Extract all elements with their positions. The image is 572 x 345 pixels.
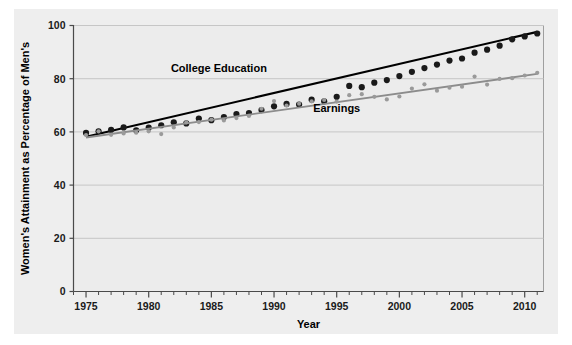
data-point bbox=[109, 133, 113, 137]
x-tick-label-1980: 1980 bbox=[137, 300, 161, 312]
data-point bbox=[172, 125, 176, 129]
data-point bbox=[134, 131, 138, 135]
data-point bbox=[498, 77, 502, 81]
x-tick-label-2000: 2000 bbox=[388, 300, 412, 312]
data-point bbox=[371, 80, 377, 86]
data-point bbox=[297, 102, 301, 106]
x-tick-label-1975: 1975 bbox=[74, 300, 98, 312]
data-point bbox=[334, 94, 340, 100]
plot-background bbox=[74, 26, 544, 292]
data-point bbox=[509, 36, 515, 42]
data-point bbox=[122, 131, 126, 135]
data-point bbox=[434, 62, 440, 68]
data-point bbox=[284, 103, 288, 107]
data-point bbox=[471, 50, 477, 56]
x-axis-title: Year bbox=[297, 318, 321, 330]
data-point bbox=[410, 86, 414, 90]
data-point bbox=[409, 69, 415, 75]
series-label-college-education: College Education bbox=[171, 62, 267, 74]
y-tick-label-40: 40 bbox=[54, 179, 66, 191]
data-point bbox=[360, 92, 364, 96]
data-point bbox=[421, 65, 427, 71]
data-point bbox=[84, 133, 88, 137]
data-point bbox=[484, 47, 490, 53]
chart-figure: 020406080100 197519801985199019952000200… bbox=[0, 0, 572, 345]
data-point bbox=[259, 107, 263, 111]
y-axis: 020406080100 bbox=[48, 19, 74, 297]
x-tick-label-1990: 1990 bbox=[262, 300, 286, 312]
data-point bbox=[522, 33, 528, 39]
data-point bbox=[523, 73, 527, 77]
data-point bbox=[460, 85, 464, 89]
scatter-chart-svg: 020406080100 197519801985199019952000200… bbox=[0, 0, 572, 345]
data-point bbox=[535, 71, 539, 75]
data-point bbox=[397, 94, 401, 98]
data-point bbox=[121, 124, 127, 130]
data-point bbox=[147, 129, 151, 133]
chart-plot-wrapper: 020406080100 197519801985199019952000200… bbox=[0, 0, 572, 345]
y-tick-label-80: 80 bbox=[54, 73, 66, 85]
data-point bbox=[447, 86, 451, 90]
data-point bbox=[485, 82, 489, 86]
y-axis-title: Women's Attainment as Percentage of Men'… bbox=[19, 42, 31, 275]
x-axis: 19751980198519901995200020052010 bbox=[74, 292, 544, 312]
data-point bbox=[396, 73, 402, 79]
series-label-earnings: Earnings bbox=[313, 102, 360, 114]
data-point bbox=[497, 43, 503, 49]
data-point bbox=[534, 30, 540, 36]
data-point bbox=[435, 89, 439, 93]
data-point bbox=[209, 118, 213, 122]
data-point bbox=[234, 116, 238, 120]
data-point bbox=[247, 114, 251, 118]
data-point bbox=[197, 120, 201, 124]
data-point bbox=[385, 97, 389, 101]
plot-area-background bbox=[74, 26, 544, 292]
y-tick-label-20: 20 bbox=[54, 232, 66, 244]
data-point bbox=[384, 77, 390, 83]
data-point bbox=[159, 132, 163, 136]
y-tick-label-60: 60 bbox=[54, 126, 66, 138]
data-point bbox=[472, 74, 476, 78]
y-tick-label-0: 0 bbox=[60, 285, 66, 297]
x-tick-label-1985: 1985 bbox=[200, 300, 224, 312]
data-point bbox=[346, 83, 352, 89]
data-point bbox=[347, 93, 351, 97]
data-point bbox=[108, 127, 114, 133]
y-tick-label-100: 100 bbox=[48, 19, 66, 31]
data-point bbox=[222, 118, 226, 122]
x-tick-label-1995: 1995 bbox=[325, 300, 349, 312]
data-point bbox=[459, 55, 465, 61]
data-point bbox=[359, 84, 365, 90]
data-point bbox=[372, 95, 376, 99]
data-point bbox=[184, 120, 188, 124]
data-point bbox=[96, 129, 100, 133]
x-tick-label-2010: 2010 bbox=[513, 300, 537, 312]
data-point bbox=[446, 58, 452, 64]
data-point bbox=[510, 76, 514, 80]
data-point bbox=[271, 103, 277, 109]
data-point bbox=[272, 99, 276, 103]
data-point bbox=[422, 82, 426, 86]
x-tick-label-2005: 2005 bbox=[450, 300, 474, 312]
